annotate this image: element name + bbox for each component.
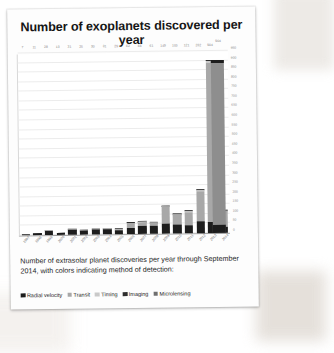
bar-segment (68, 230, 76, 235)
x-axis-tick-label: 2009 (163, 234, 171, 242)
stacked-bar (22, 234, 30, 235)
y-axis-tick-label: 300 (232, 170, 238, 174)
x-axis-tick: 2001 (66, 237, 78, 248)
x-axis-tick: 2002 (78, 237, 90, 248)
stacked-bar (103, 228, 111, 234)
chart-area: 71128133125303129626661149105121232904 9… (17, 39, 250, 249)
x-axis-tick: 2011 (183, 235, 195, 246)
y-axis-tick-label: 650 (231, 103, 237, 107)
y-axis-tick-label: 0 (233, 228, 235, 232)
y-axis-tick-label: 700 (231, 94, 237, 98)
x-axis-tick: 2013 (206, 235, 218, 246)
bar-segment (196, 221, 205, 233)
x-axis-tick: 2000 (54, 237, 66, 248)
stacked-bar (173, 213, 182, 233)
x-axis-tick: 2010 (171, 235, 183, 246)
stacked-bar (115, 229, 123, 235)
bar-segment (162, 223, 171, 233)
plot-region: 904 (17, 52, 230, 237)
x-axis-tick-label: 2010 (174, 234, 182, 242)
y-axis-tick-label: 950 (231, 46, 237, 50)
cumulative-total-label: 904 (209, 39, 228, 43)
y-axis-tick-label: 50 (233, 218, 237, 222)
x-axis-tick: 2014 (218, 235, 230, 246)
bar-segment (196, 191, 205, 221)
legend-swatch (67, 292, 72, 297)
stacked-bar (68, 229, 76, 235)
x-axis-tick-label: 2001 (69, 235, 77, 243)
bar-segment (103, 230, 111, 235)
bar-segment (150, 226, 158, 234)
legend-item: Timing (95, 291, 118, 297)
legend-label: Timing (101, 291, 117, 297)
x-axis-tick-label: 2006 (128, 234, 136, 242)
legend-label: Transit (73, 292, 90, 298)
y-axis-tick-label: 550 (232, 122, 238, 126)
stacked-bar (57, 232, 65, 235)
stacked-bar (161, 205, 170, 234)
x-axis-tick-label: 2005 (116, 234, 124, 242)
x-axis-tick: 2006 (124, 236, 136, 247)
legend-item: Microlensing (153, 290, 190, 296)
cumulative-total-column: 904 (209, 51, 230, 233)
stacked-bar (138, 221, 147, 234)
legend-item: Imaging (123, 291, 149, 297)
bar-segment (173, 224, 181, 233)
legend-swatch (123, 292, 128, 297)
bar-segment (127, 227, 135, 234)
bar-segment (173, 215, 182, 225)
x-axis-tick-label: 2000 (57, 235, 65, 243)
x-axis-tick: 1998 (31, 237, 43, 248)
background-shadow-bottom-right (256, 271, 326, 341)
x-axis-tick-label: 2013 (210, 233, 218, 241)
stacked-bar (92, 229, 100, 235)
legend-swatch (153, 291, 158, 296)
y-axis-tick-label: 400 (232, 151, 238, 155)
legend-item: Transit (67, 292, 90, 298)
x-axis-tick-label: 1998 (34, 235, 42, 243)
x-axis-tick-label: 1999 (46, 235, 54, 243)
x-axis-tick: 1999 (42, 237, 54, 248)
x-axis-tick: 2009 (160, 236, 172, 247)
x-axis-tick-label: 2014 (221, 233, 229, 241)
stacked-bar (80, 230, 88, 235)
stacked-bar (126, 222, 135, 234)
y-axis-tick-label: 800 (231, 74, 237, 78)
y-axis-tick-label: 150 (233, 199, 239, 203)
bar-segment (57, 233, 65, 235)
stacked-bar (150, 222, 159, 234)
bar-segment (138, 226, 146, 234)
x-axis-tick: 2007 (136, 236, 148, 247)
legend-item: Radial velocity (21, 292, 63, 299)
legend-swatch (21, 293, 26, 298)
figure-card: Number of exoplanets discovered per year… (7, 6, 259, 309)
y-axis-tick-label: 600 (231, 113, 237, 117)
legend-swatch (95, 292, 100, 297)
bar-segment (185, 225, 193, 233)
x-axis-tick: 2012 (195, 235, 207, 246)
y-axis-tick-label: 450 (232, 142, 238, 146)
legend-label: Radial velocity (27, 292, 63, 298)
bar-segment (161, 207, 170, 224)
y-axis-tick-label: 500 (232, 132, 238, 136)
bar-segment (45, 231, 53, 236)
x-axis-ticks: 1997199819992000200120022003200420052006… (19, 235, 230, 249)
bar-segment (185, 212, 194, 225)
x-axis-tick: 2008 (148, 236, 160, 247)
y-axis-ticks: 0501001502002503003504004505005506006507… (229, 52, 249, 234)
x-axis-tick-label: 2012 (198, 233, 206, 241)
y-axis-tick-label: 350 (232, 161, 238, 165)
x-axis-tick-label: 2002 (81, 235, 89, 243)
stacked-bar (196, 189, 205, 234)
stacked-bar (185, 210, 194, 233)
x-axis-tick-label: 2007 (139, 234, 147, 242)
x-axis-tick: 1997 (19, 237, 31, 248)
x-axis-tick-label: 2004 (104, 235, 112, 243)
cumulative-total-base (213, 225, 226, 233)
y-axis-tick-label: 900 (231, 55, 237, 59)
x-axis-tick: 2003 (89, 236, 101, 247)
cumulative-total-bar (211, 60, 226, 233)
bar-segment (92, 230, 100, 235)
y-axis-tick-label: 850 (231, 65, 237, 69)
y-axis-tick-label: 100 (233, 209, 239, 213)
